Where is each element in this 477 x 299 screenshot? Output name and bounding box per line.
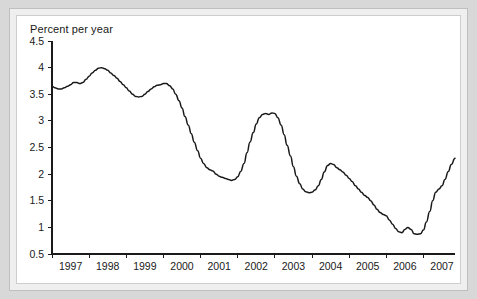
y-tick-label: 2.5 — [29, 141, 44, 153]
x-tick-label: 2004 — [319, 260, 343, 272]
y-tick-label: 3.5 — [29, 88, 44, 100]
x-tick-label: 2000 — [170, 260, 194, 272]
x-tick-label: 2002 — [245, 260, 269, 272]
x-tick-label: 2006 — [393, 260, 417, 272]
x-tick-label: 2003 — [282, 260, 306, 272]
y-tick-label: 0.5 — [29, 248, 44, 260]
y-tick-label: 4.5 — [29, 35, 44, 47]
x-tick-label: 2005 — [356, 260, 380, 272]
x-tick-label: 2007 — [430, 260, 454, 272]
y-tick-label: 4 — [38, 61, 44, 73]
y-axis-ticks: 0.511.522.533.544.5 — [29, 35, 52, 260]
y-tick-label: 3 — [38, 114, 44, 126]
x-tick-label: 2001 — [207, 260, 231, 272]
y-tick-label: 2 — [38, 168, 44, 180]
chart-plot-svg: 0.511.522.533.544.5 19971998199920002001… — [16, 15, 461, 284]
x-axis-ticks: 1997199819992000200120022003200420052006… — [52, 254, 454, 272]
x-tick-label: 1998 — [96, 260, 120, 272]
data-series-line — [52, 68, 455, 235]
x-tick-label: 1999 — [133, 260, 157, 272]
line-chart: Percent per year 0.511.522.533.544.5 199… — [16, 15, 461, 284]
y-tick-label: 1 — [38, 221, 44, 233]
figure-outer-frame: Percent per year 0.511.522.533.544.5 199… — [0, 0, 477, 299]
y-tick-label: 1.5 — [29, 194, 44, 206]
x-tick-label: 1997 — [59, 260, 83, 272]
